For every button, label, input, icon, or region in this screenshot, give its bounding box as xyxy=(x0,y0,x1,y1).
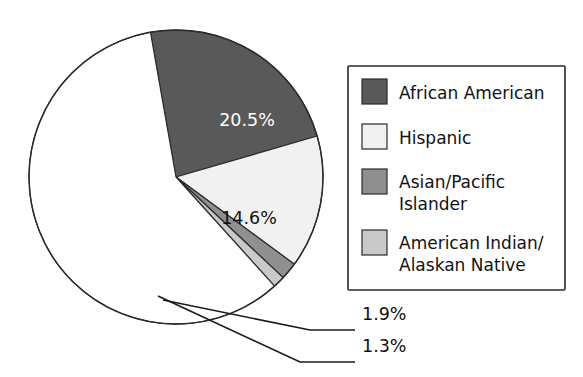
legend-swatch-american-indian-alaskan-native xyxy=(362,230,387,255)
legend-label-asian-pacific-islander-line1: Asian/Pacific xyxy=(399,172,505,192)
legend-item-hispanic[interactable]: Hispanic xyxy=(362,124,471,149)
slice-value-american-indian: 1.3% xyxy=(362,336,406,356)
slice-value-asian-pacific: 1.9% xyxy=(362,304,406,324)
legend-label-american-indian-alaskan-native-line2: Alaskan Native xyxy=(399,255,526,275)
pie-slice-group xyxy=(29,30,323,324)
chart-canvas: 20.5% 14.6% 1.9% 1.3% African American H… xyxy=(0,0,583,377)
legend-label-african-american: African American xyxy=(399,83,545,103)
legend: African American Hispanic Asian/Pacific … xyxy=(348,66,565,290)
slice-value-african-american: 20.5% xyxy=(219,110,275,130)
legend-swatch-hispanic xyxy=(362,124,387,149)
pie-chart-figure: 20.5% 14.6% 1.9% 1.3% African American H… xyxy=(0,0,583,377)
slice-value-hispanic: 14.6% xyxy=(221,208,277,228)
legend-swatch-asian-pacific-islander xyxy=(362,169,387,194)
legend-label-asian-pacific-islander-line2: Islander xyxy=(399,194,467,214)
legend-swatch-african-american xyxy=(362,79,387,104)
legend-label-hispanic: Hispanic xyxy=(399,128,471,148)
legend-label-american-indian-alaskan-native-line1: American Indian/ xyxy=(399,233,544,253)
